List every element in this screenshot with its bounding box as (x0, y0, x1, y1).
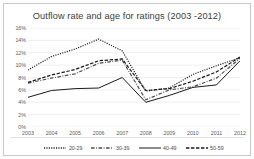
x-axis-tick-label: 2010 (187, 130, 199, 136)
legend-line-swatch (44, 145, 66, 151)
series-lines (28, 39, 240, 102)
legend-divider (10, 137, 244, 138)
y-axis-tick-label: 2% (18, 112, 26, 118)
series-line (28, 58, 240, 99)
legend-label: 30-39 (116, 145, 130, 151)
x-axis-tick-label: 2011 (211, 130, 222, 136)
legend-line-swatch (139, 145, 161, 151)
plot-svg (28, 28, 240, 127)
legend-label: 40-49 (163, 145, 177, 151)
x-axis-tick-label: 2005 (69, 130, 81, 136)
y-axis-tick-label: 12% (15, 50, 26, 56)
legend-label: 20-29 (69, 145, 83, 151)
x-axis-tick-label: 2007 (116, 130, 128, 136)
x-axis-tick-label: 2003 (22, 130, 34, 136)
y-axis-tick-label: 8% (18, 75, 26, 81)
x-axis-labels: 2003200420052006200720082009201020112012 (28, 129, 240, 141)
chart-title: Outflow rate and age for ratings (2003 -… (0, 11, 254, 21)
plot-area (28, 28, 240, 127)
chart-legend: 20-2930-3940-4950-59 (28, 141, 240, 154)
legend-line-swatch (91, 145, 113, 151)
y-axis-tick-label: 4% (18, 99, 26, 105)
x-axis-tick-label: 2009 (163, 130, 175, 136)
gridlines (28, 28, 240, 127)
y-axis-tick-label: 6% (18, 87, 26, 93)
y-axis-tick-label: 14% (15, 37, 26, 43)
legend-label: 50-59 (210, 145, 224, 151)
legend-item[interactable]: 50-59 (186, 145, 224, 151)
x-axis-tick-label: 2008 (140, 130, 152, 136)
legend-item[interactable]: 30-39 (91, 145, 129, 151)
series-line (28, 61, 240, 102)
y-axis-tick-label: 16% (15, 25, 26, 31)
y-axis-labels: 16%14%12%10%8%6%4%2%0% (6, 28, 26, 127)
x-axis-tick-label: 2004 (46, 130, 58, 136)
x-axis-tick-label: 2012 (234, 130, 246, 136)
chart-container: Outflow rate and age for ratings (2003 -… (0, 0, 254, 159)
legend-item[interactable]: 20-29 (44, 145, 82, 151)
y-axis-tick-label: 10% (15, 62, 26, 68)
x-axis-tick-label: 2006 (93, 130, 105, 136)
legend-item[interactable]: 40-49 (139, 145, 177, 151)
legend-line-swatch (186, 145, 208, 151)
